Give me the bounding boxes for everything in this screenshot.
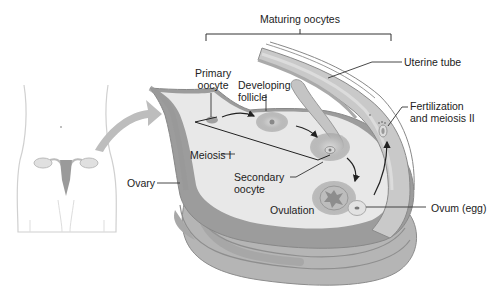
label-uterine-tube: Uterine tube: [404, 56, 461, 68]
label-meiosis-i: Meiosis I: [190, 149, 231, 161]
label-ovum: Ovum (egg): [431, 202, 486, 214]
ovum: [348, 201, 366, 216]
label-fertilization: Fertilization and meiosis II: [410, 100, 475, 124]
label-maturing-oocytes: Maturing oocytes: [260, 13, 340, 25]
label-ovary: Ovary: [127, 177, 155, 189]
developing-follicle: [256, 112, 288, 132]
label-primary-oocyte: Primary oocyte: [195, 67, 231, 91]
label-secondary-oocyte: Secondary oocyte: [234, 171, 284, 195]
label-fertilization-line2: and meiosis II: [410, 112, 475, 124]
label-secondary-oocyte-line1: Secondary: [234, 171, 284, 183]
body-silhouette: [17, 85, 116, 232]
oogenesis-diagram: [0, 0, 498, 305]
label-primary-oocyte-line1: Primary: [195, 67, 231, 79]
label-developing-follicle-line1: Developing: [238, 79, 291, 91]
label-secondary-oocyte-line2: oocyte: [234, 183, 284, 195]
label-ovulation: Ovulation: [270, 204, 314, 216]
secondary-follicle: [310, 133, 350, 161]
label-developing-follicle-line2: follicle: [238, 91, 291, 103]
label-developing-follicle: Developing follicle: [238, 79, 291, 103]
maturing-oocytes-bracket: [206, 29, 391, 41]
label-primary-oocyte-line2: oocyte: [195, 79, 231, 91]
label-fertilization-line1: Fertilization: [410, 100, 475, 112]
